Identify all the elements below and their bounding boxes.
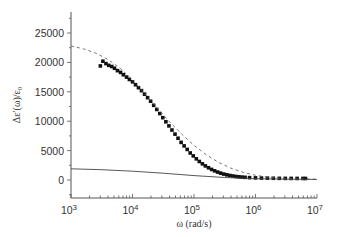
y-tick-label: 10000 (35, 115, 64, 127)
x-tick-label: 107 (307, 203, 324, 216)
data-point (99, 64, 103, 68)
x-tick-label: 103 (61, 203, 78, 216)
y-axis-title: Δε′(ω)/ε₀ (11, 86, 23, 123)
data-point (222, 172, 226, 176)
data-point (179, 141, 183, 145)
data-point (167, 124, 171, 128)
data-point (122, 73, 126, 77)
data-point (260, 176, 264, 180)
y-tick-label: 5000 (41, 145, 65, 157)
y-tick-label: 25000 (35, 27, 64, 39)
data-point (204, 164, 208, 168)
x-axis-title: ω (rad/s) (176, 218, 211, 230)
y-tick-label: 15000 (35, 86, 64, 98)
y-axis: 0500010000150002000025000 (35, 12, 71, 198)
data-point (173, 132, 177, 136)
plot-series (71, 46, 317, 180)
data-point (128, 78, 132, 82)
x-axis: 103104105106107 (61, 194, 324, 216)
x-tick-label: 106 (245, 203, 262, 216)
chart: 0500010000150002000025000 10310410510610… (0, 0, 345, 237)
data-point (231, 174, 235, 178)
data-point (219, 171, 223, 175)
data-point (161, 116, 165, 120)
data-point (107, 64, 111, 68)
data-point (164, 120, 168, 124)
y-tick-label: 0 (58, 174, 64, 186)
data-point (185, 148, 189, 152)
data-point (182, 144, 186, 148)
data-point (198, 160, 202, 164)
y-tick-label: 20000 (35, 56, 64, 68)
data-point (116, 69, 120, 73)
data-point (207, 166, 211, 170)
x-tick-label: 105 (184, 203, 201, 216)
data-point (176, 136, 180, 140)
x-tick-label: 104 (122, 203, 139, 216)
data-point (170, 128, 174, 132)
